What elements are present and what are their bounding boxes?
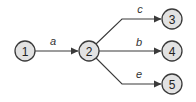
edge-label-a: a [50, 35, 56, 47]
node-1: 1 [15, 41, 35, 61]
graph-diagram: a c b e 1 2 3 4 5 [0, 0, 196, 102]
edge-e [96, 58, 161, 84]
node-5: 5 [162, 74, 182, 94]
node-4: 4 [162, 41, 182, 61]
node-label-3: 3 [169, 13, 176, 27]
node-label-2: 2 [86, 45, 93, 59]
edge-label-b: b [136, 36, 142, 48]
node-3: 3 [162, 9, 182, 29]
edge-c [96, 19, 161, 44]
node-label-1: 1 [22, 45, 29, 59]
edge-label-c: c [137, 3, 143, 15]
edge-label-e: e [136, 68, 142, 80]
node-label-4: 4 [169, 45, 176, 59]
node-2: 2 [79, 41, 99, 61]
node-label-5: 5 [169, 78, 176, 92]
